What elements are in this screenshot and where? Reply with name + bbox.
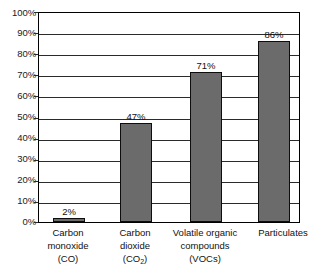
tick-mark-30 [34, 160, 38, 161]
tick-mark-10 [34, 202, 38, 203]
tick-mark-0 [34, 222, 38, 223]
y-tick-label-100: 100% [2, 8, 36, 18]
formula-subscript: 2 [140, 258, 144, 265]
y-tick-label-80: 80% [2, 49, 36, 59]
tick-mark-50 [34, 118, 38, 119]
tick-mark-40 [34, 139, 38, 140]
y-tick-label-30: 30% [2, 154, 36, 164]
y-tick-label-50: 50% [2, 112, 36, 122]
bar-chart: 100% 90% 80% 70% 60% 50% 40% 30% 20% 10%… [0, 0, 318, 279]
y-tick-label-20: 20% [2, 175, 36, 185]
y-tick-label-10: 10% [2, 196, 36, 206]
x-category-line: (VOCs) [151, 252, 259, 265]
x-category-line: Particulates [233, 226, 318, 239]
y-tick-label-40: 40% [2, 133, 36, 143]
y-tick-label-70: 70% [2, 70, 36, 80]
x-category-particulates: Particulates [233, 226, 318, 239]
tick-mark-100 [34, 12, 38, 13]
y-tick-label-90: 90% [2, 28, 36, 38]
tick-mark-80 [34, 54, 38, 55]
x-axis: Carbon monoxide (CO) Carbon dioxide (CO2… [38, 226, 300, 279]
y-tick-marks [38, 12, 300, 223]
x-category-line: compounds [151, 239, 259, 252]
tick-mark-20 [34, 181, 38, 182]
y-tick-label-60: 60% [2, 91, 36, 101]
tick-mark-70 [34, 75, 38, 76]
tick-mark-60 [34, 96, 38, 97]
tick-mark-90 [34, 33, 38, 34]
formula-suffix: ) [144, 253, 147, 264]
formula-prefix: (CO [123, 253, 140, 264]
